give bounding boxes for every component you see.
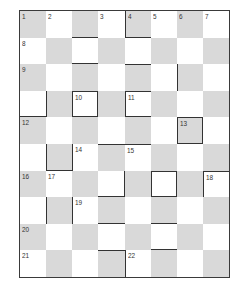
grid-cell[interactable]	[46, 91, 72, 118]
grid-cell[interactable]	[98, 38, 124, 65]
grid-cell[interactable]	[98, 250, 124, 277]
grid-cell[interactable]	[20, 91, 46, 118]
grid-cell[interactable]: 3	[98, 11, 124, 38]
grid-cell[interactable]	[46, 144, 72, 171]
grid-cell[interactable]	[177, 144, 203, 171]
grid-cell[interactable]: 15	[125, 144, 151, 171]
clue-number: 19	[75, 198, 82, 207]
grid-cell[interactable]: 4	[125, 11, 151, 38]
clue-number: 12	[22, 118, 29, 127]
grid-cell[interactable]	[177, 64, 203, 91]
grid-cell[interactable]	[151, 197, 177, 224]
grid-cell[interactable]: 12	[20, 117, 46, 144]
grid-cell[interactable]	[203, 224, 229, 251]
grid-cell[interactable]: 20	[20, 224, 46, 251]
clue-number: 7	[205, 12, 209, 21]
clue-number: 20	[22, 225, 29, 234]
grid-cell[interactable]: 17	[46, 171, 72, 198]
clue-number: 6	[179, 12, 183, 21]
grid-cell[interactable]: 11	[125, 91, 151, 118]
grid-cell[interactable]: 1	[20, 11, 46, 38]
grid-cell[interactable]	[151, 91, 177, 118]
grid-cell[interactable]: 10	[72, 91, 98, 118]
grid-cell[interactable]	[72, 250, 98, 277]
clue-number: 16	[22, 172, 29, 181]
clue-number: 4	[128, 12, 132, 21]
grid-cell[interactable]	[177, 224, 203, 251]
grid-cell[interactable]	[125, 38, 151, 65]
grid-cell[interactable]	[125, 117, 151, 144]
clue-number: 11	[128, 93, 135, 102]
grid-cell[interactable]: 8	[20, 38, 46, 65]
crossword-grid: 12345678910111213141516171819202122	[19, 10, 230, 278]
grid-cell[interactable]	[72, 117, 98, 144]
grid-cell[interactable]	[125, 171, 151, 198]
grid-cell[interactable]	[46, 250, 72, 277]
grid-cell[interactable]	[46, 197, 72, 224]
grid-cell[interactable]	[98, 144, 124, 171]
clue-number: 8	[22, 39, 26, 48]
grid-cell[interactable]	[151, 38, 177, 65]
grid-cell[interactable]	[203, 144, 229, 171]
grid-cell[interactable]	[151, 144, 177, 171]
grid-cell[interactable]	[20, 144, 46, 171]
grid-cell[interactable]	[72, 224, 98, 251]
grid-cell[interactable]	[203, 64, 229, 91]
clue-number: 2	[48, 12, 52, 21]
grid-cell[interactable]	[125, 224, 151, 251]
grid-cell[interactable]: 5	[151, 11, 177, 38]
grid-cell[interactable]	[125, 197, 151, 224]
grid-cell[interactable]: 2	[46, 11, 72, 38]
grid-cell[interactable]	[151, 250, 177, 277]
grid-cell[interactable]	[177, 250, 203, 277]
clue-number: 15	[127, 146, 134, 155]
grid-cell[interactable]	[203, 117, 229, 144]
grid-cell[interactable]	[151, 117, 177, 144]
grid-cell[interactable]	[46, 64, 72, 91]
grid-cell[interactable]	[125, 64, 151, 91]
grid-cell[interactable]	[151, 171, 177, 198]
grid-cell[interactable]	[203, 197, 229, 224]
grid-cell[interactable]: 13	[177, 117, 203, 144]
grid-cell[interactable]: 9	[20, 64, 46, 91]
grid-cell[interactable]: 14	[72, 144, 98, 171]
grid-cell[interactable]: 19	[72, 197, 98, 224]
grid-cell[interactable]	[98, 64, 124, 91]
grid-cell[interactable]	[177, 171, 203, 198]
grid-cell[interactable]	[203, 38, 229, 65]
grid-cell[interactable]	[20, 197, 46, 224]
grid-cell[interactable]	[177, 197, 203, 224]
clue-number: 1	[22, 12, 26, 21]
grid-cell[interactable]	[72, 38, 98, 65]
grid-cell[interactable]	[98, 91, 124, 118]
grid-cell[interactable]: 22	[125, 250, 151, 277]
clue-number: 10	[75, 93, 82, 102]
grid-cell[interactable]	[72, 64, 98, 91]
clue-number: 5	[153, 12, 157, 21]
grid-cell[interactable]	[177, 38, 203, 65]
grid-cell[interactable]	[98, 117, 124, 144]
grid-cell[interactable]: 6	[177, 11, 203, 38]
grid-cell[interactable]	[203, 91, 229, 118]
grid-cell[interactable]: 7	[203, 11, 229, 38]
clue-number: 13	[180, 119, 187, 128]
grid-cell[interactable]	[72, 11, 98, 38]
grid-cell[interactable]: 16	[20, 171, 46, 198]
grid-cell[interactable]	[151, 64, 177, 91]
clue-number: 9	[22, 65, 26, 74]
grid-cell[interactable]: 21	[20, 250, 46, 277]
grid-cell[interactable]: 18	[203, 171, 229, 198]
grid-cell[interactable]	[98, 197, 124, 224]
grid-cell[interactable]	[72, 171, 98, 198]
grid-cell[interactable]	[151, 224, 177, 251]
grid-cell[interactable]	[177, 91, 203, 118]
grid-cell[interactable]	[98, 171, 124, 198]
grid-cell[interactable]	[46, 117, 72, 144]
clue-number: 22	[128, 251, 135, 260]
grid-cell[interactable]	[46, 224, 72, 251]
grid-cell[interactable]	[46, 38, 72, 65]
clue-number: 21	[22, 251, 29, 260]
grid-cell[interactable]	[203, 250, 229, 277]
clue-number: 14	[75, 145, 82, 154]
grid-cell[interactable]	[98, 224, 124, 251]
